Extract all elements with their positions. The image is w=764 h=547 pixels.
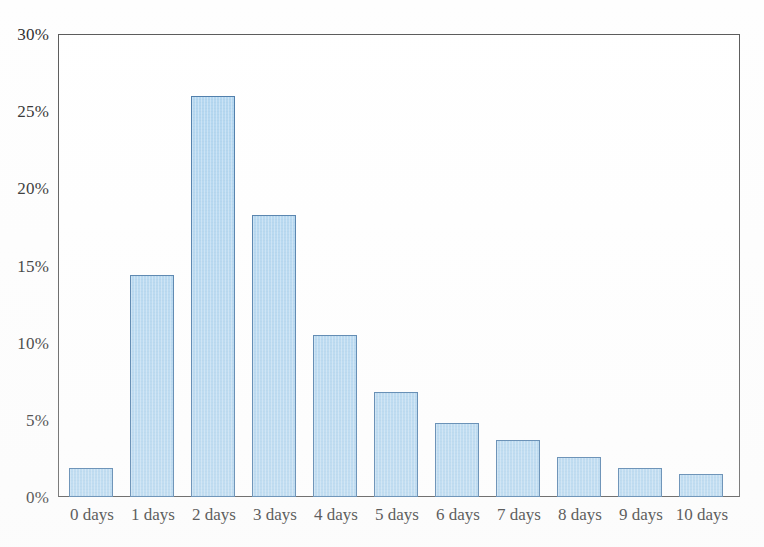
y-tick-label: 30% — [1, 26, 49, 43]
bar — [191, 96, 235, 497]
y-tick-label: 20% — [1, 180, 49, 197]
bar — [313, 335, 357, 497]
x-tick-label: 10 days — [659, 505, 745, 525]
y-tick-label: 10% — [1, 335, 49, 352]
y-axis: 30% 25% 20% 15% 10% 5% 0% — [0, 0, 58, 547]
bar — [69, 468, 113, 497]
bar — [618, 468, 662, 497]
bar — [435, 423, 479, 497]
y-tick-label: 0% — [1, 489, 49, 506]
y-tick-label: 25% — [1, 103, 49, 120]
y-tick-label: 5% — [1, 412, 49, 429]
bar-series — [58, 34, 740, 497]
bar — [679, 474, 723, 497]
chart-figure: 30% 25% 20% 15% 10% 5% 0% 0 days 1 days … — [0, 0, 764, 547]
x-axis: 0 days 1 days 2 days 3 days 4 days 5 day… — [58, 505, 740, 535]
bar — [130, 275, 174, 497]
bar — [252, 215, 296, 497]
bar — [496, 440, 540, 497]
bar — [557, 457, 601, 497]
bar — [374, 392, 418, 497]
y-tick-label: 15% — [1, 258, 49, 275]
